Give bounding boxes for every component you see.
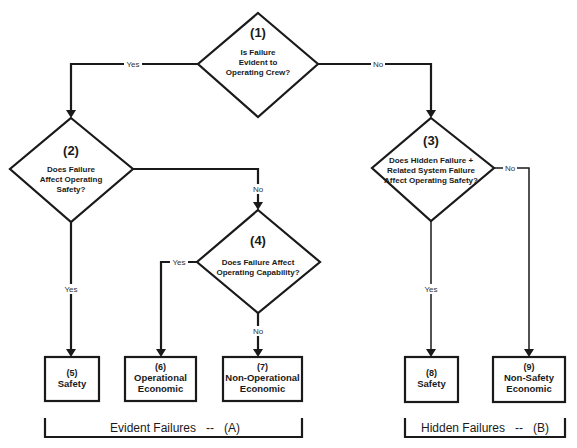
decision-3-hidden-failure-safety: (3) Does Hidden Failure + Related System… — [372, 118, 494, 221]
decision-text-line: Affect Operating — [40, 175, 103, 184]
outcome-text-line: Safety — [58, 378, 87, 389]
decision-text-line: Evident to — [239, 58, 278, 67]
outcome-7-non-operational-economic: (7) Non-Operational Economic — [223, 357, 302, 401]
outcome-text-line: Economic — [506, 383, 551, 394]
edge-1-to-3 — [318, 64, 431, 112]
edge-label-yes: Yes — [64, 285, 77, 294]
decision-text-line: Safety? — [57, 185, 86, 194]
arrow-down-icon — [156, 349, 166, 357]
outcome-number: (5) — [67, 368, 78, 378]
arrow-down-icon — [66, 349, 76, 357]
outcome-number: (6) — [155, 362, 166, 372]
outcome-number: (7) — [257, 362, 268, 372]
outcome-text-line: Economic — [240, 383, 285, 394]
edge-label-yes: Yes — [424, 285, 437, 294]
decision-number: (1) — [250, 25, 266, 40]
edge-label-yes: Yes — [126, 60, 139, 69]
decision-2-affect-safety: (2) Does Failure Affect Operating Safety… — [10, 118, 133, 222]
outcome-5-safety: (5) Safety — [45, 357, 99, 401]
arrow-down-icon — [524, 349, 534, 357]
arrow-down-icon — [253, 349, 263, 357]
decision-number: (2) — [63, 143, 79, 158]
edge-label-no: No — [253, 327, 264, 336]
decision-1-evident-to-crew: (1) Is Failure Evident to Operating Crew… — [198, 13, 318, 117]
group-label: Hidden Failures -- (B) — [421, 421, 549, 435]
edge-1-to-2 — [71, 64, 223, 112]
outcome-text-line: Non-Safety — [504, 372, 555, 383]
outcome-text-line: Economic — [138, 383, 183, 394]
decision-text-line: Operating Crew? — [226, 68, 291, 77]
edge-3-to-9 — [494, 168, 529, 351]
connectors — [71, 64, 529, 351]
edge-label-no: No — [505, 164, 516, 173]
outcome-9-non-safety-economic: (9) Non-Safety Economic — [493, 357, 565, 402]
outcome-number: (9) — [524, 362, 535, 372]
decision-number: (3) — [423, 133, 439, 148]
group-label: Evident Failures -- (A) — [110, 421, 240, 435]
outcome-text-line: Safety — [417, 378, 446, 389]
decision-text-line: Does Failure — [47, 165, 96, 174]
failure-consequence-flowchart: Yes No Yes No Yes No Yes No (1) Is Failu… — [0, 0, 577, 448]
edge-label-no: No — [253, 185, 264, 194]
decision-text-line: Related System Failure — [387, 166, 476, 175]
edge-label-no: No — [373, 60, 384, 69]
outcome-number: (8) — [426, 368, 437, 378]
group-hidden-failures: Hidden Failures -- (B) — [405, 418, 565, 437]
decision-text-line: Is Failure — [240, 48, 276, 57]
edge-4-to-6 — [161, 262, 197, 351]
edge-2-to-4 — [133, 169, 258, 204]
arrow-down-icon — [426, 349, 436, 357]
group-evident-failures: Evident Failures -- (A) — [45, 418, 302, 437]
decision-text-line: Operating Capability? — [216, 268, 299, 277]
decision-text-line: Does Failure Affect — [222, 258, 295, 267]
outcome-6-operational-economic: (6) Operational Economic — [125, 357, 196, 401]
outcome-text-line: Non-Operational — [225, 372, 299, 383]
decision-number: (4) — [250, 233, 266, 248]
edge-label-yes: Yes — [172, 258, 185, 267]
outcome-8-safety: (8) Safety — [405, 357, 458, 402]
decision-text-line: Affect Operating Safety? — [384, 176, 478, 185]
decision-text-line: Does Hidden Failure + — [389, 156, 474, 165]
decision-4-operating-capability: (4) Does Failure Affect Operating Capabi… — [197, 210, 320, 313]
outcome-text-line: Operational — [134, 372, 187, 383]
